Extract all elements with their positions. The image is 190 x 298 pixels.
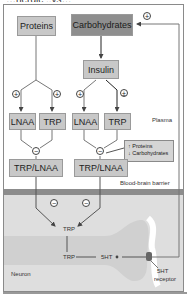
minus-sign-right: −: [96, 147, 104, 155]
plus-sign-feedback: +: [143, 12, 151, 20]
minus-sign-bbb-left: −: [50, 199, 58, 207]
trp-right-node: TRP: [104, 113, 131, 130]
note-carbs-down: ↓ Carbohydrates: [128, 150, 170, 157]
minus-sign-bbb-right: −: [82, 199, 90, 207]
trp-lnaa-ratio-left-node: TRP/LNAA: [9, 159, 63, 177]
trp-lnaa-ratio-right-node: TRP/LNAA: [74, 159, 128, 177]
diet-note-box: ↑ Proteins ↓ Carbohydrates: [124, 140, 174, 162]
blood-brain-barrier-label: Blood-brain barrier: [120, 180, 170, 186]
neuron-label: Neuron: [11, 271, 31, 277]
plasma-label: Plasma: [152, 117, 172, 123]
plusminus-sign-trp-right: ±: [120, 89, 128, 97]
receptor-label-line1: 5HT: [157, 268, 168, 274]
trp-left-node: TRP: [39, 113, 66, 130]
trp-neuron-label: TRP: [63, 254, 75, 260]
insulin-node: Insulin: [83, 60, 119, 79]
receptor-label-line2: receptor: [154, 276, 176, 282]
note-proteins-up: ↑ Proteins: [128, 143, 170, 150]
proteins-node: Proteins: [17, 16, 56, 36]
minus-sign-left: −: [32, 147, 40, 155]
plus-sign-lnaa-left: +: [12, 90, 20, 98]
lnaa-left-node: LNAA: [9, 113, 36, 130]
lnaa-right-node: LNAA: [72, 113, 99, 130]
serotonin-label: 5HT: [101, 254, 112, 260]
carbohydrates-node: Carbohydrates: [71, 14, 133, 36]
trp-brain-label: TRP: [63, 226, 75, 232]
plus-sign-trp-left: +: [53, 90, 61, 98]
plus-sign-lnaa-right: +: [76, 90, 84, 98]
